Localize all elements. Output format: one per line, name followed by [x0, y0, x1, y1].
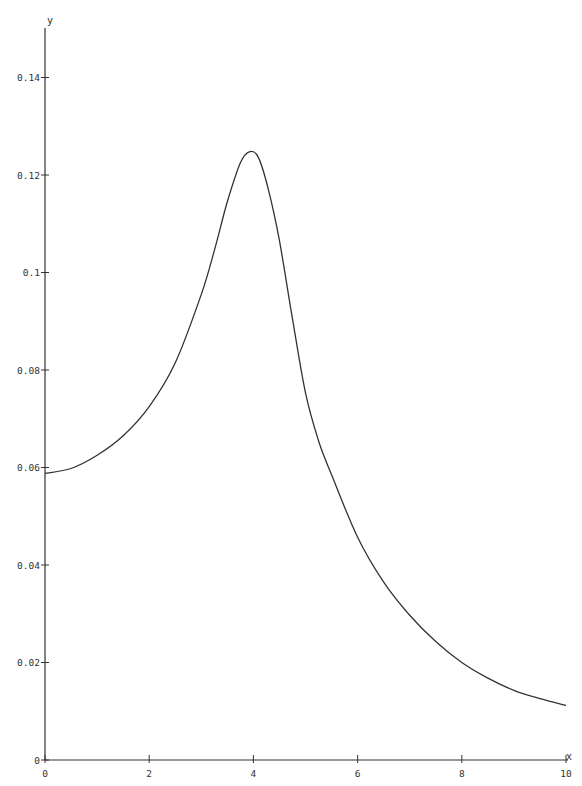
- y-axis-label: y: [47, 15, 53, 26]
- y-tick-label: 0.08: [17, 365, 40, 376]
- y-tick-label: 0.02: [17, 657, 40, 668]
- y-tick-label: 0.04: [17, 560, 40, 571]
- y-tick-label: 0: [34, 755, 40, 766]
- y-tick-label: 0.06: [17, 462, 40, 473]
- x-axis-label: x: [566, 751, 572, 762]
- x-tick-label: 2: [146, 768, 152, 779]
- x-tick-label: 0: [42, 768, 48, 779]
- line-chart: 00.020.040.060.080.10.120.14 0246810 y x: [0, 0, 582, 786]
- y-tick-label: 0.1: [23, 267, 40, 278]
- y-tick-label: 0.12: [17, 170, 40, 181]
- x-tick-label: 10: [560, 768, 572, 779]
- x-tick-label: 4: [251, 768, 257, 779]
- data-series-line: [45, 151, 566, 705]
- y-axis-ticks: 00.020.040.060.080.10.120.14: [17, 72, 49, 766]
- x-tick-label: 6: [355, 768, 361, 779]
- x-tick-label: 8: [459, 768, 465, 779]
- x-axis-ticks: 0246810: [42, 755, 572, 779]
- y-tick-label: 0.14: [17, 72, 40, 83]
- axes: [45, 28, 568, 760]
